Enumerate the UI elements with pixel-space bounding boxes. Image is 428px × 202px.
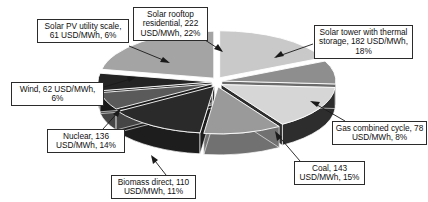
callout-solar-pv-utility-scale: Solar PV utility scale, 61 USD/MWh, 6% xyxy=(37,19,129,43)
callout-coal: Coal, 143 USD/MWh, 15% xyxy=(294,161,365,185)
callout-wind: Wind, 62 USD/MWh, 6% xyxy=(11,82,104,106)
pie-chart-figure: Solar rooftop residential, 222 USD/MWh, … xyxy=(0,0,428,202)
callout-solar-tower-thermal-storage: Solar tower with thermal storage, 182 US… xyxy=(314,25,413,59)
callout-biomass-direct: Biomass direct, 110 USD/MWh, 11% xyxy=(111,175,196,199)
callout-solar-rooftop-residential: Solar rooftop residential, 222 USD/MWh, … xyxy=(133,7,208,41)
callout-nuclear: Nuclear, 136 USD/MWh, 14% xyxy=(47,129,125,153)
callout-gas-combined-cycle: Gas combined cycle, 78 USD/MWh, 8% xyxy=(332,121,427,145)
